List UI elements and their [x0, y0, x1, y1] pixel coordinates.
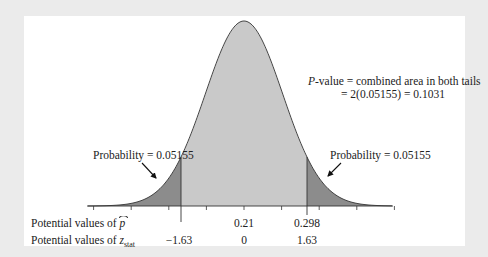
phat-axis-label: Potential values of p — [31, 217, 125, 230]
z-subscript: stat — [124, 240, 135, 249]
p-italic: P — [308, 75, 315, 87]
phat-tick-center: 0.21 — [234, 217, 254, 230]
z-tick-right-critical: 1.63 — [297, 234, 317, 247]
p-value-line2: = 2(0.05155) = 0.1031 — [308, 88, 478, 101]
phat-tick-right-critical: 0.298 — [294, 217, 320, 230]
left-tail-area — [88, 157, 181, 206]
right-arrow-icon — [328, 163, 341, 176]
p-value-line1: -value = combined area in both tails — [315, 75, 481, 87]
z-axis-label: Potential values of zstat — [31, 234, 135, 251]
curve-layer — [88, 21, 392, 206]
left-tail-probability-label: Probability = 0.05155 — [93, 149, 194, 162]
p-value-annotation: P-value = combined area in both tails = … — [308, 75, 478, 101]
z-tick-center: 0 — [241, 234, 247, 247]
right-tail-area — [307, 157, 392, 206]
phat-symbol: p — [119, 217, 125, 230]
right-tail-probability-label: Probability = 0.05155 — [330, 149, 431, 162]
center-area — [181, 21, 307, 206]
left-arrow-icon — [142, 163, 156, 178]
phat-axis-label-text: Potential values of — [31, 217, 119, 229]
z-axis-label-text: Potential values of — [31, 234, 119, 246]
z-tick-left-critical: −1.63 — [166, 234, 193, 247]
